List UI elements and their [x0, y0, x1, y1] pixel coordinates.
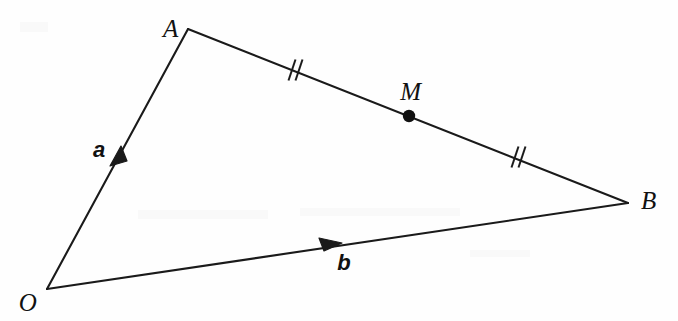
midpoint-marker-M — [403, 110, 415, 122]
vector-label-a: a — [93, 139, 105, 161]
point-label-M: M — [400, 79, 421, 104]
segment-OB — [47, 203, 628, 289]
point-label-B: B — [641, 188, 657, 213]
vector-arrowhead-a — [110, 146, 127, 166]
point-label-O: O — [19, 290, 38, 315]
point-label-A: A — [163, 16, 179, 41]
vector-label-b: b — [337, 252, 350, 274]
geometry-figure: O A B M a b — [0, 0, 678, 321]
